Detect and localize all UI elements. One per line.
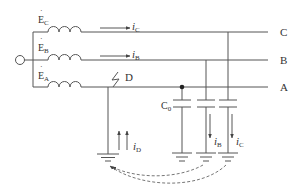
inductor-c-icon <box>48 27 81 33</box>
current-label-ib: iB <box>132 48 140 62</box>
phase-label-a: A <box>280 81 288 93</box>
svg-text:·: · <box>40 6 43 15</box>
inductor-a-icon <box>48 82 81 88</box>
phase-label-c: C <box>280 26 287 38</box>
junction-dot <box>180 85 185 90</box>
svg-text:·: · <box>40 34 43 43</box>
svg-text:·: · <box>40 62 43 71</box>
source-label-eb: EB <box>38 42 49 55</box>
current-label-id: iD <box>133 140 141 154</box>
phase-label-b: B <box>280 54 287 66</box>
source-label-ea: EA <box>38 70 49 83</box>
inductor-b-icon <box>48 55 81 61</box>
neutral-node <box>16 56 25 65</box>
circuit-diagram: EC · EB · EA · iC iB C B A D C0 iD iB iC <box>0 0 297 192</box>
current-label-cap-ib: iB <box>214 135 222 149</box>
fault-label: D <box>125 71 133 83</box>
fault-lightning-icon <box>112 72 119 87</box>
current-label-cap-ic: iC <box>236 135 244 149</box>
current-label-ic: iC <box>132 20 140 34</box>
source-label-ec: EC <box>38 14 49 27</box>
capacitance-label: C0 <box>161 100 172 113</box>
return-path-c <box>110 165 226 183</box>
